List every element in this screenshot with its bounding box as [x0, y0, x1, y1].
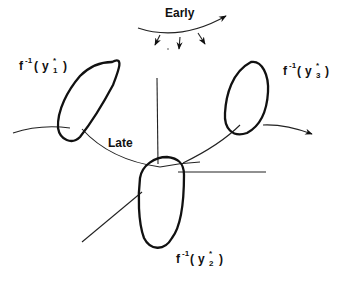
- vertical-axis: [157, 78, 158, 164]
- region-y3-label: f -1 ( y * 3 ): [283, 61, 329, 80]
- svg-text:-1: -1: [182, 249, 190, 258]
- svg-text:3: 3: [316, 71, 321, 80]
- svg-text:*: *: [316, 61, 320, 70]
- svg-text:1: 1: [53, 66, 58, 75]
- svg-text:-1: -1: [289, 61, 297, 70]
- svg-text:): ): [219, 252, 223, 266]
- svg-text:y: y: [305, 64, 312, 78]
- svg-text:(: (: [34, 59, 38, 73]
- svg-text:): ): [325, 64, 329, 78]
- region-y1-blob: [58, 60, 119, 141]
- svg-text:f: f: [19, 59, 24, 73]
- svg-text:f: f: [283, 64, 288, 78]
- coordinate-axes: [82, 78, 266, 242]
- diagram-canvas: Early Late f -1 ( y * 1 ) f -1 ( y * 3 )…: [0, 0, 340, 281]
- region-y2-blob: [139, 157, 184, 248]
- svg-text:(: (: [297, 64, 301, 78]
- region-y1-label: f -1 ( y * 1 ): [19, 56, 67, 75]
- diagonal-axis: [82, 192, 142, 242]
- svg-text:): ): [63, 59, 67, 73]
- svg-text:y: y: [198, 252, 205, 266]
- svg-text:-1: -1: [25, 56, 33, 65]
- region-y2-label: f -1 ( y * 2 ): [176, 249, 223, 268]
- svg-text:f: f: [176, 252, 181, 266]
- svg-text:*: *: [53, 56, 57, 65]
- svg-text:(: (: [190, 252, 194, 266]
- early-label: Early: [165, 6, 195, 20]
- svg-text:*: *: [209, 249, 213, 258]
- svg-text:y: y: [42, 59, 49, 73]
- svg-text:2: 2: [209, 259, 214, 268]
- early-trajectory: [138, 16, 226, 50]
- region-y3-blob: [225, 62, 268, 134]
- late-label: Late: [108, 136, 133, 150]
